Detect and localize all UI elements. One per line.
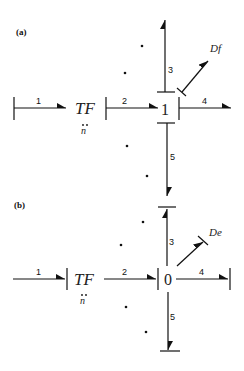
tf-label-a: TF (75, 99, 95, 118)
panel-a: (a) 1 TF n 2 1 3 (14, 20, 231, 196)
bond-3-a: 3 (157, 20, 175, 92)
tf-modulus-a: n (81, 125, 86, 136)
bond-1-a-number: 1 (36, 96, 41, 106)
bond-5-a-number: 5 (170, 152, 175, 162)
bond-2-b: 2 (104, 267, 158, 290)
df-bond: Df (177, 42, 223, 96)
bond-3-b-number: 3 (169, 237, 174, 247)
bond-4-a-number: 4 (202, 96, 207, 106)
bond-1-b: 1 (13, 267, 67, 290)
bond-1-a: 1 (14, 96, 66, 120)
tf-modulus-b: n (80, 295, 85, 306)
bond-1-b-number: 1 (36, 267, 41, 277)
transformer-a: TF n (75, 99, 95, 136)
panel-a-label: (a) (16, 27, 27, 37)
bond-graph-diagram: (a) 1 TF n 2 1 3 (0, 0, 244, 371)
df-element: Df (209, 42, 223, 54)
transformer-b: TF n (74, 270, 94, 306)
bond-5-b-number: 5 (170, 312, 175, 322)
bond-5-a: 5 (157, 123, 175, 196)
bond-5-b: 5 (160, 292, 180, 351)
bond-3-a-number: 3 (168, 65, 173, 75)
panel-b: (b) 1 TF n 2 0 3 (13, 200, 230, 351)
panel-b-label: (b) (14, 200, 25, 210)
bond-4-a: 4 (179, 96, 231, 120)
bond-4-b: 4 (176, 267, 230, 290)
junction-0: 0 (164, 271, 172, 288)
de-element: De (208, 226, 222, 238)
bond-2-a: 2 (106, 96, 158, 120)
bond-4-b-number: 4 (199, 267, 204, 277)
bond-2-a-number: 2 (122, 96, 127, 106)
de-bond: De (177, 226, 222, 266)
ellipsis-dots-b (120, 221, 148, 334)
junction-1: 1 (161, 101, 169, 118)
bond-3-b: 3 (158, 207, 176, 266)
bond-2-b-number: 2 (122, 267, 127, 277)
tf-label-b: TF (74, 270, 94, 289)
ellipsis-dots-a (124, 45, 149, 178)
